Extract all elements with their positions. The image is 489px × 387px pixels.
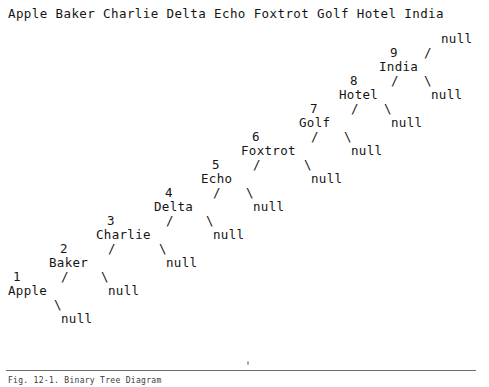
branch-to-root-null: / [424, 46, 432, 59]
left-branch-baker: / [61, 270, 69, 283]
node-index-baker: 2 [60, 242, 68, 255]
right-branch-hotel: \ [384, 102, 392, 115]
node-label-foxtrot: Foxtrot [241, 144, 296, 157]
right-branch-baker: \ [101, 270, 109, 283]
right-branch-foxtrot: \ [304, 158, 312, 171]
left-branch-india: / [391, 74, 399, 87]
right-branch-apple: \ [54, 298, 62, 311]
null-leaf-right-of-charlie: null [166, 256, 197, 269]
null-leaf-right-of-india: null [431, 88, 462, 101]
null-leaf-right-of-baker: null [108, 284, 139, 297]
null-leaf-right-of-echo: null [253, 200, 284, 213]
left-branch-delta: / [166, 214, 174, 227]
binary-tree-diagram: /null9India/\null8Hotel/\null7Golf/\null… [0, 0, 489, 362]
node-index-apple: 1 [13, 270, 21, 283]
node-label-echo: Echo [201, 172, 232, 185]
null-leaf-right-of-delta: null [213, 228, 244, 241]
node-index-delta: 4 [165, 186, 173, 199]
right-branch-echo: \ [246, 186, 254, 199]
node-label-baker: Baker [49, 256, 88, 269]
left-branch-echo: / [213, 186, 221, 199]
node-index-foxtrot: 6 [252, 130, 260, 143]
node-label-apple: Apple [8, 284, 47, 297]
node-label-charlie: Charlie [96, 228, 151, 241]
left-branch-hotel: / [351, 102, 359, 115]
figure-caption: Fig. 12-1. Binary Tree Diagram [8, 376, 162, 387]
null-leaf-right-of-hotel: null [391, 116, 422, 129]
node-index-charlie: 3 [107, 214, 115, 227]
footer-divider [6, 370, 476, 371]
node-label-golf: Golf [299, 116, 330, 129]
left-branch-golf: / [311, 130, 319, 143]
right-branch-delta: \ [206, 214, 214, 227]
node-index-echo: 5 [212, 158, 220, 171]
scan-artifact-speck [247, 361, 249, 365]
node-index-hotel: 8 [350, 74, 358, 87]
right-branch-charlie: \ [159, 242, 167, 255]
null-leaf-right-of-golf: null [351, 144, 382, 157]
null-leaf-right-of-apple: null [61, 312, 92, 325]
right-branch-golf: \ [344, 130, 352, 143]
null-leaf-above-india: null [441, 32, 472, 45]
node-label-hotel: Hotel [339, 88, 378, 101]
left-branch-charlie: / [108, 242, 116, 255]
node-label-delta: Delta [154, 200, 193, 213]
null-leaf-right-of-foxtrot: null [311, 172, 342, 185]
node-label-india: India [379, 60, 418, 73]
node-index-golf: 7 [310, 102, 318, 115]
right-branch-india: \ [424, 74, 432, 87]
left-branch-foxtrot: / [253, 158, 261, 171]
node-index-india: 9 [390, 46, 398, 59]
